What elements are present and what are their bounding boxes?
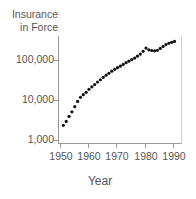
x-tick-1980: 1980 bbox=[131, 150, 161, 162]
data-point bbox=[79, 96, 82, 99]
x-tick-1990: 1990 bbox=[159, 150, 189, 162]
data-point bbox=[159, 47, 162, 50]
data-point bbox=[162, 45, 165, 48]
data-point bbox=[170, 41, 173, 44]
data-point bbox=[124, 61, 127, 64]
data-point bbox=[113, 68, 116, 71]
data-points bbox=[62, 40, 176, 127]
data-point bbox=[133, 56, 136, 59]
data-point bbox=[167, 42, 170, 45]
data-point bbox=[156, 49, 159, 52]
data-point bbox=[107, 72, 110, 75]
data-point bbox=[70, 110, 73, 113]
data-point bbox=[96, 80, 99, 83]
data-point bbox=[85, 91, 88, 94]
data-point bbox=[130, 58, 133, 61]
data-point bbox=[99, 78, 102, 81]
data-point bbox=[87, 88, 90, 91]
data-point bbox=[82, 93, 85, 96]
plot-area bbox=[0, 0, 196, 199]
data-point bbox=[67, 115, 70, 118]
data-point bbox=[173, 40, 176, 43]
data-point bbox=[150, 49, 153, 52]
x-tick-1960: 1960 bbox=[74, 150, 104, 162]
data-point bbox=[139, 52, 142, 55]
data-point bbox=[65, 120, 68, 123]
x-tick-1970: 1970 bbox=[102, 150, 132, 162]
data-point bbox=[119, 65, 122, 68]
data-point bbox=[105, 74, 108, 77]
data-point bbox=[62, 124, 65, 127]
data-point bbox=[136, 55, 139, 58]
data-point bbox=[110, 70, 113, 73]
data-point bbox=[90, 85, 93, 88]
data-point bbox=[127, 60, 130, 63]
data-point bbox=[164, 43, 167, 46]
x-axis-label: Year bbox=[80, 174, 120, 188]
data-point bbox=[93, 83, 96, 86]
data-point bbox=[153, 49, 156, 52]
data-point bbox=[73, 105, 76, 108]
x-tick-1950: 1950 bbox=[46, 150, 76, 162]
data-point bbox=[102, 76, 105, 79]
data-point bbox=[142, 50, 145, 53]
data-point bbox=[144, 46, 147, 49]
data-point bbox=[116, 66, 119, 69]
axes bbox=[54, 36, 182, 148]
data-point bbox=[76, 100, 79, 103]
data-point bbox=[122, 63, 125, 66]
data-point bbox=[147, 48, 150, 51]
